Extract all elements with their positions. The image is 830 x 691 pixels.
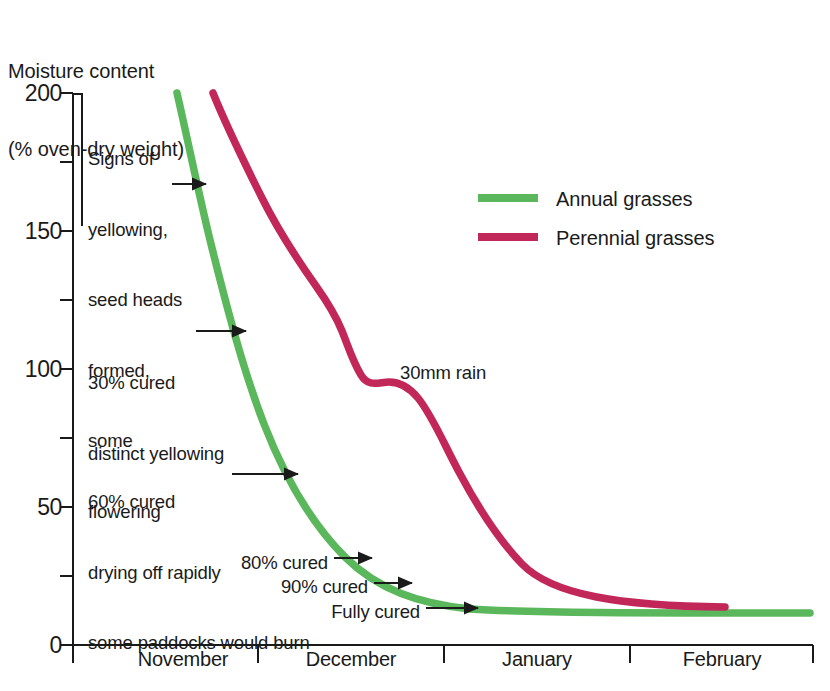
y-axis-tick-label-50: 50 (0, 494, 62, 521)
annotation-line: yellowing, (88, 218, 182, 242)
y-axis-tick-label-100: 100 (0, 356, 62, 383)
annotation-line: seed heads (88, 288, 182, 312)
x-axis-tick-label-february: February (657, 648, 787, 671)
y-axis-tick-label-150: 150 (0, 218, 62, 245)
chart-container: Moisture content (% oven-dry weight) 200… (0, 0, 830, 691)
annotation-fully-cured: Fully cured (240, 600, 420, 624)
annotation-line: 30% cured (88, 371, 224, 395)
y-axis-tick-label-200: 200 (0, 80, 62, 107)
annotation-30mm-rain: 30mm rain (400, 361, 486, 385)
x-axis-tick-label-january: January (472, 648, 602, 671)
legend-label-annual-grasses: Annual grasses (556, 188, 692, 211)
y-axis-tick-label-0: 0 (0, 632, 62, 659)
annotation-90-percent-cured: 90% cured (178, 575, 368, 599)
annotation-line: 60% cured (88, 490, 310, 514)
annotation-line: some paddocks would burn (88, 631, 310, 655)
legend-label-perennial-grasses: Perennial grasses (556, 227, 714, 250)
annotation-80-percent-cured: 80% cured (148, 551, 328, 575)
annotation-line: Signs of (88, 147, 182, 171)
